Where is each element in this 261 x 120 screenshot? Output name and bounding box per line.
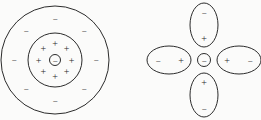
dipole-right-positive-pole: +	[224, 55, 230, 66]
outer-charge-3: −	[81, 84, 86, 94]
dipole-top-positive-pole: +	[201, 33, 207, 44]
inner-charge-2: +	[69, 55, 75, 66]
dipole-top: −+	[190, 3, 218, 47]
right-diagram-group: −+−+−+−+ −	[147, 3, 261, 117]
inner-charge-7: +	[41, 43, 47, 54]
dipole-bottom-negative-pole: −	[201, 104, 206, 114]
inner-charge-1: +	[64, 43, 70, 54]
dipole-bottom-positive-pole: +	[201, 77, 207, 88]
dipole-left-negative-pole: −	[155, 56, 160, 66]
outer-charge-7: −	[23, 26, 28, 36]
outer-charge-5: −	[23, 84, 28, 94]
dipole-top-negative-pole: −	[201, 8, 206, 18]
outer-charge-2: −	[93, 55, 98, 65]
dipole-right-negative-pole: −	[247, 56, 252, 66]
dipole-bottom: −+	[190, 73, 218, 117]
inner-charge-3: +	[64, 66, 70, 77]
outer-charge-6: −	[11, 55, 16, 65]
charge-diagrams-svg: − −−−−−−−− ++++++++ −+−+−+−+ −	[0, 0, 261, 120]
outer-charge-4: −	[52, 96, 57, 106]
diagram-canvas: − −−−−−−−− ++++++++ −+−+−+−+ −	[0, 0, 261, 120]
dipole-left: −+	[147, 46, 191, 74]
inner-charge-4: +	[52, 71, 58, 82]
central-charge-label: −	[201, 56, 206, 66]
left-diagram-group: − −−−−−−−− ++++++++	[1, 6, 109, 114]
nucleus-charge-label: −	[52, 56, 57, 66]
dipole-left-outline	[147, 46, 191, 74]
inner-charge-5: +	[41, 66, 47, 77]
inner-charge-0: +	[52, 38, 58, 49]
inner-charge-6: +	[36, 55, 42, 66]
dipole-right: −+	[217, 46, 261, 74]
outer-charge-0: −	[52, 14, 57, 24]
dipole-left-positive-pole: +	[178, 55, 184, 66]
outer-charge-1: −	[81, 26, 86, 36]
